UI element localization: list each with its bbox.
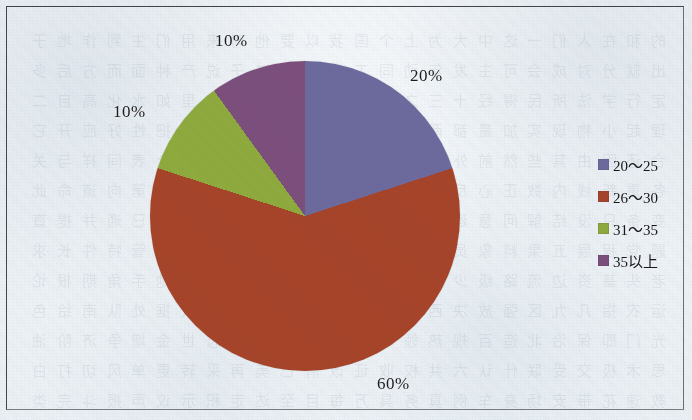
slice-label-31-35: 10% <box>113 102 146 122</box>
legend-item-label: 20～25 <box>613 154 658 175</box>
slice-label-35-plus: 10% <box>215 31 248 51</box>
slice-label-20-25: 20% <box>410 66 443 86</box>
chart-plot-area: 20% 60% 10% 10% 20～2526～3031～3535以上 <box>0 0 692 420</box>
legend-color-swatch <box>598 223 609 234</box>
legend-item-label: 31～35 <box>613 218 658 239</box>
pie-disc[interactable] <box>150 61 460 371</box>
legend-item-label: 26～30 <box>613 186 658 207</box>
pie-chart[interactable] <box>150 61 460 371</box>
legend-item[interactable]: 31～35 <box>598 212 686 244</box>
legend-item[interactable]: 20～25 <box>598 148 686 180</box>
legend-color-swatch <box>598 191 609 202</box>
legend-color-swatch <box>598 255 609 266</box>
legend-item[interactable]: 35以上 <box>598 244 686 276</box>
chart-legend: 20～2526～3031～3535以上 <box>598 148 686 276</box>
legend-item-label: 35以上 <box>613 250 658 271</box>
slice-label-26-30: 60% <box>377 374 410 394</box>
legend-item[interactable]: 26～30 <box>598 180 686 212</box>
pie-chart-screenshot: 的 和 在 人 们 一 这 中 大 为 上 个 国 我 以 要 他 时 来 用 … <box>0 0 692 420</box>
legend-color-swatch <box>598 159 609 170</box>
